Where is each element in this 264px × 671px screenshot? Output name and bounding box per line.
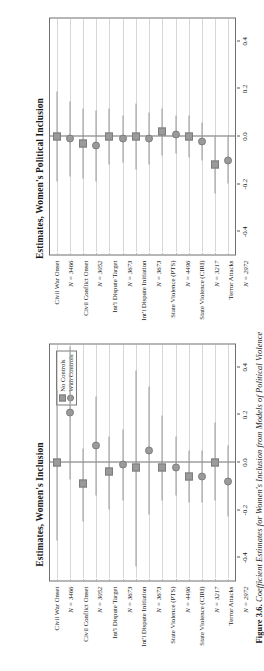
category-label: Int'l Dispute Initiation (137, 258, 150, 320)
sample-size-label: N = 4496 (181, 584, 194, 612)
point-marker-with-controls (92, 141, 100, 149)
x-axis-1: -0.4-0.20.00.20.4 (237, 17, 253, 255)
sample-size-label: N = 3217 (210, 584, 223, 612)
x-axis-tick-label: -0.2 (241, 504, 248, 515)
point-marker-no-controls (105, 132, 113, 140)
estimate-row (143, 18, 155, 254)
point-marker-no-controls (158, 463, 166, 471)
estimate-row (51, 18, 63, 254)
x-axis-tick-label: 0.4 (241, 37, 248, 46)
point-marker-with-controls (66, 408, 74, 416)
point-marker-no-controls (132, 463, 140, 471)
x-axis-tick (237, 509, 240, 510)
estimate-row (90, 344, 102, 580)
confidence-interval-bar (162, 415, 163, 500)
plot-area-1 (49, 17, 236, 255)
estimate-row (183, 18, 195, 254)
estimate-row (64, 344, 76, 580)
category-label: State Violence (PTS) (167, 584, 180, 643)
sample-size-label: N = 3052 (94, 258, 107, 286)
panel-title: Estimates, Women's Political Inclusion (35, 17, 45, 339)
estimate-row (103, 344, 115, 580)
category-label: State Violence (CIRI) (196, 258, 209, 319)
x-axis-tick (237, 413, 240, 414)
category-label: State Violence (CIRI) (196, 584, 209, 645)
estimate-row (170, 344, 182, 580)
category-axis-0: Civil War OnsetN = 3466Civil Conflict On… (49, 581, 253, 665)
estimate-row (143, 344, 155, 580)
estimate-row (222, 18, 234, 254)
category-label: Civil Conflict Onset (79, 584, 92, 641)
sample-size-label: N = 2972 (239, 584, 252, 612)
figure-panels: Estimates, Women's Inclusion Civil War O… (29, 0, 253, 671)
point-marker-no-controls (53, 458, 61, 466)
x-axis-tick-label: 0.0 (241, 458, 248, 467)
estimate-row (103, 18, 115, 254)
x-axis-0: -0.4-0.20.00.20.4 (237, 343, 253, 581)
x-axis-tick (237, 135, 240, 136)
sample-size-label: N = 3466 (65, 584, 78, 612)
category-label: Civil War Onset (50, 258, 63, 304)
point-marker-with-controls (119, 134, 127, 142)
estimate-row (209, 344, 221, 580)
category-label: Int'l Dispute Target (108, 258, 121, 312)
category-label: Int'l Dispute Target (108, 584, 121, 638)
estimate-row (156, 18, 168, 254)
x-axis-tick-label: -0.4 (241, 552, 248, 563)
figure-caption: Figure 3.6. Coefficient Estimates for Wo… (253, 0, 262, 671)
estimate-row (90, 18, 102, 254)
category-label: Terror Attacks (225, 258, 238, 299)
estimate-row (51, 344, 63, 580)
panel-title: Estimates, Women's Inclusion (35, 343, 45, 665)
plot-area-0: No Controls With Controls (49, 343, 236, 581)
category-label: Int'l Dispute Initiation (137, 584, 150, 646)
sample-size-label: N = 3052 (94, 584, 107, 612)
x-axis-tick-label: 0.0 (241, 132, 248, 141)
category-label: Terror Attacks (225, 584, 238, 625)
sample-size-label: N = 3466 (65, 258, 78, 286)
estimate-row (196, 18, 208, 254)
sample-size-label: N = 3673 (152, 258, 165, 286)
estimate-row (117, 18, 129, 254)
category-label: State Violence (PTS) (167, 258, 180, 317)
x-axis-tick (237, 40, 240, 41)
panel-womens-inclusion: Estimates, Women's Inclusion Civil War O… (35, 343, 253, 665)
estimate-row (222, 344, 234, 580)
point-marker-no-controls (158, 127, 166, 135)
category-axis-1: Civil War OnsetN = 3466Civil Conflict On… (49, 255, 253, 339)
category-label: Civil War Onset (50, 584, 63, 630)
x-axis-tick (237, 366, 240, 367)
estimate-row (117, 344, 129, 580)
estimate-row (130, 344, 142, 580)
point-marker-with-controls (198, 472, 206, 480)
estimate-row (170, 18, 182, 254)
figure-page: Estimates, Women's Inclusion Civil War O… (29, 0, 262, 671)
x-axis-tick (237, 230, 240, 231)
point-marker-no-controls (211, 160, 219, 168)
sample-size-label: N = 3673 (152, 584, 165, 612)
point-marker-no-controls (132, 132, 140, 140)
estimate-row (183, 344, 195, 580)
estimate-row (130, 18, 142, 254)
caption-number: Figure 3.6. (255, 604, 262, 643)
point-marker-with-controls (145, 134, 153, 142)
point-marker-no-controls (211, 458, 219, 466)
point-marker-with-controls (224, 477, 232, 485)
estimate-row (209, 18, 221, 254)
x-axis-tick-label: -0.4 (241, 226, 248, 237)
caption-text: Coefficient Estimates for Women's Inclus… (255, 331, 262, 604)
estimate-row (156, 344, 168, 580)
point-marker-no-controls (185, 472, 193, 480)
point-marker-no-controls (105, 467, 113, 475)
point-marker-with-controls (119, 460, 127, 468)
x-axis-tick-label: 0.2 (241, 84, 248, 93)
x-axis-tick (237, 183, 240, 184)
point-marker-with-controls (172, 130, 180, 138)
category-label: Civil Conflict Onset (79, 258, 92, 315)
sample-size-label: N = 3673 (123, 584, 136, 612)
x-axis-tick (237, 87, 240, 88)
point-marker-with-controls (92, 441, 100, 449)
point-marker-no-controls (53, 132, 61, 140)
point-marker-no-controls (79, 139, 87, 147)
estimate-row (196, 344, 208, 580)
